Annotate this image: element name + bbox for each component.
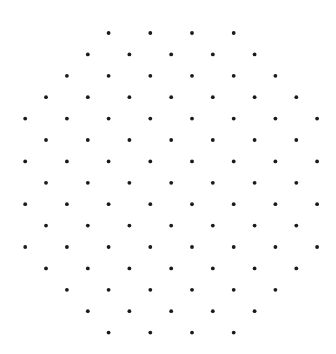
dot: [23, 160, 27, 164]
dot: [86, 138, 90, 142]
dot: [232, 202, 236, 206]
dot: [23, 117, 27, 121]
dot: [274, 117, 278, 121]
dot: [169, 138, 173, 142]
dot: [232, 117, 236, 121]
dot: [211, 181, 215, 185]
dot: [44, 95, 48, 99]
dot: [107, 331, 111, 335]
dot: [169, 267, 173, 271]
dot: [44, 267, 48, 271]
dot: [294, 181, 298, 185]
dot: [190, 31, 194, 35]
dot: [211, 224, 215, 228]
dot: [148, 160, 152, 164]
dot: [294, 224, 298, 228]
dot: [253, 95, 257, 99]
dot: [127, 267, 131, 271]
dot: [274, 245, 278, 249]
dot: [253, 224, 257, 228]
dot: [107, 160, 111, 164]
dot: [148, 31, 152, 35]
dot: [274, 160, 278, 164]
dot: [127, 53, 131, 57]
dot: [274, 202, 278, 206]
dot: [107, 288, 111, 292]
dot: [190, 245, 194, 249]
dot: [65, 202, 69, 206]
dot: [274, 288, 278, 292]
dot: [86, 95, 90, 99]
dot-pattern: [0, 0, 336, 354]
dot: [232, 74, 236, 78]
dot: [232, 331, 236, 335]
dot: [127, 181, 131, 185]
dot: [190, 74, 194, 78]
dot: [274, 74, 278, 78]
dot: [148, 331, 152, 335]
dot: [65, 160, 69, 164]
dot: [211, 95, 215, 99]
dot: [65, 245, 69, 249]
dot: [253, 181, 257, 185]
dot: [190, 160, 194, 164]
dot: [86, 53, 90, 57]
dot: [65, 117, 69, 121]
dot: [211, 53, 215, 57]
dot: [315, 117, 319, 121]
dot: [65, 74, 69, 78]
dot: [86, 224, 90, 228]
dot: [232, 31, 236, 35]
dot: [190, 288, 194, 292]
dot: [44, 138, 48, 142]
dot: [211, 309, 215, 313]
dot: [169, 309, 173, 313]
dot: [190, 331, 194, 335]
dot: [315, 245, 319, 249]
dot: [253, 309, 257, 313]
dot: [190, 117, 194, 121]
dot: [148, 74, 152, 78]
dot: [294, 138, 298, 142]
dot: [127, 95, 131, 99]
dot: [148, 245, 152, 249]
dot: [107, 245, 111, 249]
dot: [211, 138, 215, 142]
dot: [23, 245, 27, 249]
dot: [107, 31, 111, 35]
dot: [169, 224, 173, 228]
dot: [232, 288, 236, 292]
dot: [294, 95, 298, 99]
dot: [169, 53, 173, 57]
dot: [44, 181, 48, 185]
dot: [148, 117, 152, 121]
dot: [107, 74, 111, 78]
dot: [148, 202, 152, 206]
dot: [169, 181, 173, 185]
dot: [232, 245, 236, 249]
dot: [86, 309, 90, 313]
dot: [253, 138, 257, 142]
dot: [211, 267, 215, 271]
dot: [232, 160, 236, 164]
dot: [127, 138, 131, 142]
dot: [23, 202, 27, 206]
dot: [127, 309, 131, 313]
dot: [148, 288, 152, 292]
dot: [294, 267, 298, 271]
dot: [253, 53, 257, 57]
dot: [107, 202, 111, 206]
dot: [86, 267, 90, 271]
dot: [253, 267, 257, 271]
dot: [315, 160, 319, 164]
dot: [315, 202, 319, 206]
dot: [65, 288, 69, 292]
dot: [190, 202, 194, 206]
dot: [107, 117, 111, 121]
dot: [169, 95, 173, 99]
dot: [127, 224, 131, 228]
dot: [86, 181, 90, 185]
background: [0, 0, 336, 354]
dot: [44, 224, 48, 228]
